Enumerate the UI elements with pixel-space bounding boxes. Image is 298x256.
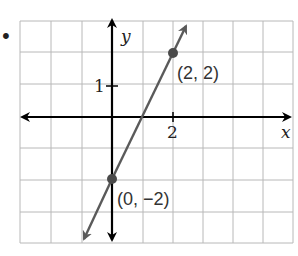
coordinate-graph: • y x 1 2 (2, 2) (0, −2): [0, 0, 298, 256]
point-2-2: [168, 48, 178, 58]
x-axis-label: x: [281, 122, 291, 142]
x-tick-label: 2: [167, 122, 178, 142]
point-label-0-neg2: (0, −2): [117, 189, 170, 209]
grid-lines: [20, 21, 293, 243]
y-axis-label: y: [120, 26, 131, 46]
y-tick-label: 1: [94, 76, 105, 96]
bullet-marker: •: [0, 25, 12, 49]
point-0-neg2: [107, 174, 117, 184]
plotted-line-lower: [84, 179, 112, 239]
point-label-2-2: (2, 2): [177, 63, 219, 83]
